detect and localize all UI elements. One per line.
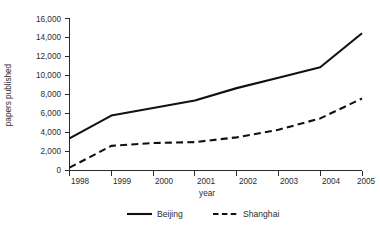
plot-area (70, 33, 363, 167)
legend-label-beijing: Beijing (157, 209, 183, 219)
x-tick-label-1999: 1999 (113, 177, 132, 186)
y-axis: 0 2,000 4,000 6,000 8,000 10,000 12,000 … (4, 15, 70, 176)
y-tick-label-0: 0 (56, 166, 61, 175)
y-tick-label-12000: 12,000 (36, 52, 61, 61)
x-tick-label-2001: 2001 (197, 177, 216, 186)
x-tick-label-2003: 2003 (280, 177, 299, 186)
x-tick-label-2005: 2005 (357, 177, 376, 186)
x-tick-label-2004: 2004 (322, 177, 341, 186)
chart-legend: Beijing Shanghai (127, 209, 279, 219)
y-tick-label-2000: 2,000 (41, 147, 62, 156)
y-tick-label-14000: 14,000 (36, 33, 61, 42)
series-line-shanghai (70, 99, 363, 168)
line-chart: 0 2,000 4,000 6,000 8,000 10,000 12,000 … (0, 0, 380, 227)
y-axis-title: papers published (4, 63, 13, 126)
x-tick-label-2000: 2000 (155, 177, 174, 186)
x-axis-title: year (199, 189, 215, 198)
x-tick-label-1998: 1998 (71, 177, 90, 186)
legend-label-shanghai: Shanghai (243, 209, 279, 219)
x-tick-label-2002: 2002 (239, 177, 258, 186)
series-line-beijing (70, 33, 363, 138)
y-tick-label-4000: 4,000 (41, 128, 62, 137)
y-tick-label-16000: 16,000 (36, 15, 61, 24)
y-tick-label-6000: 6,000 (41, 109, 62, 118)
x-axis: 1998 1999 2000 2001 2002 2003 2004 2005 … (70, 171, 376, 199)
y-tick-label-10000: 10,000 (36, 71, 61, 80)
chart-canvas: 0 2,000 4,000 6,000 8,000 10,000 12,000 … (0, 0, 380, 227)
y-tick-label-8000: 8,000 (41, 90, 62, 99)
